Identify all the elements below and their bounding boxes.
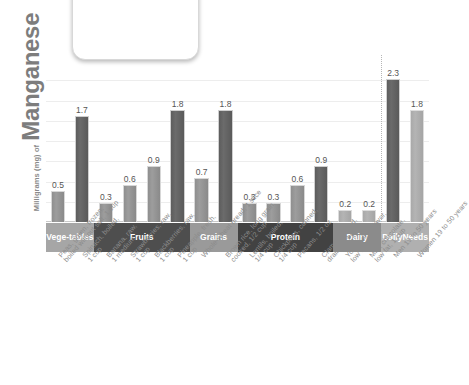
- plot-area: 0.51.70.30.60.91.80.71.80.30.30.60.90.20…: [46, 60, 429, 222]
- bar-value-label: 1.7: [76, 105, 88, 115]
- bar[interactable]: [410, 110, 424, 222]
- bar-slot[interactable]: 0.5: [51, 180, 65, 222]
- bar-slot[interactable]: 1.8: [218, 99, 232, 222]
- bar-value-label: 0.2: [339, 199, 351, 209]
- bar-value-label: 0.5: [52, 180, 64, 190]
- y-axis-title: Milligrams (mg) of Manganese: [17, 0, 49, 227]
- myplate-logo: ChooseMyPlate.gov: [72, 0, 199, 60]
- y-axis-title-units: Milligrams (mg) of: [32, 145, 41, 211]
- bar-value-label: 1.8: [220, 99, 232, 109]
- bar-series: 0.51.70.30.60.91.80.71.80.30.30.60.90.20…: [46, 60, 429, 222]
- bar-slot[interactable]: 1.8: [410, 99, 424, 222]
- bar-value-label: 0.9: [315, 155, 327, 165]
- y-axis-title-nutrient: Manganese: [17, 13, 45, 141]
- bar-slot[interactable]: 0.7: [194, 167, 208, 222]
- bar-slot[interactable]: 2.3: [386, 68, 400, 222]
- bar-value-label: 1.8: [172, 99, 184, 109]
- bar[interactable]: [75, 116, 89, 222]
- bar-slot[interactable]: 1.8: [170, 99, 184, 222]
- x-axis-labels: Peas, green, frozen,boiled without salt,…: [0, 252, 429, 385]
- bar-slot[interactable]: 1.7: [75, 105, 89, 222]
- bar-value-label: 1.8: [411, 99, 423, 109]
- bar[interactable]: [147, 166, 161, 222]
- bar[interactable]: [123, 185, 137, 222]
- bar-value-label: 0.7: [196, 167, 208, 177]
- bar-value-label: 0.6: [291, 174, 303, 184]
- bar[interactable]: [218, 110, 232, 222]
- bar-value-label: 2.3: [387, 68, 399, 78]
- bar-slot[interactable]: 0.9: [147, 155, 161, 222]
- daily-needs-divider: [381, 55, 382, 222]
- bar-value-label: 0.6: [124, 174, 136, 184]
- bar-value-label: 0.9: [148, 155, 160, 165]
- bar[interactable]: [170, 110, 184, 222]
- bar[interactable]: [51, 191, 65, 222]
- bar[interactable]: [290, 185, 304, 222]
- bar-slot[interactable]: 0.6: [123, 174, 137, 222]
- bar[interactable]: [386, 79, 400, 222]
- bar-slot[interactable]: 0.6: [290, 174, 304, 222]
- bar-value-label: 0.2: [363, 199, 375, 209]
